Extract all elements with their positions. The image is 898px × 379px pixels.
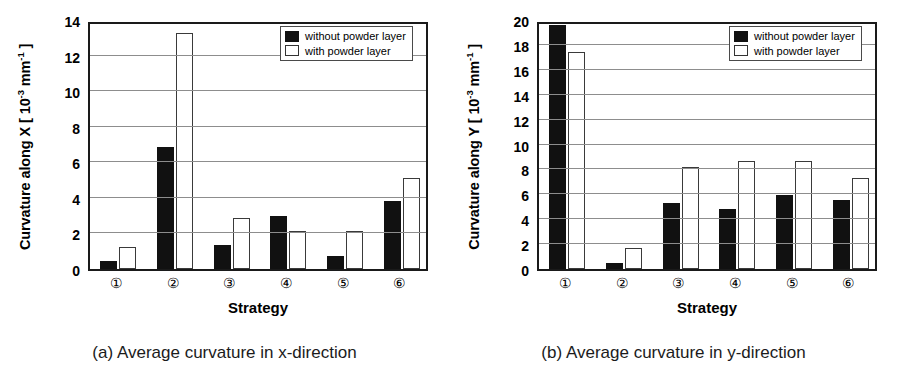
y-tick-label: 12 bbox=[64, 51, 80, 65]
x-tick-label: ④ bbox=[280, 276, 293, 290]
y-tick-label: 4 bbox=[521, 214, 529, 228]
bar-without-powder-layer bbox=[663, 203, 680, 269]
bar-without-powder-layer bbox=[833, 200, 850, 269]
bar-with-powder-layer bbox=[403, 178, 420, 269]
bar-without-powder-layer bbox=[157, 147, 174, 269]
gridline bbox=[90, 197, 426, 198]
caption-a: (a) Average curvature in x-direction bbox=[0, 343, 449, 363]
bar-group bbox=[606, 24, 642, 269]
bar-with-powder-layer bbox=[289, 231, 306, 269]
panel-a: Curvature along X [ 10-3 mm-1 ] 02468101… bbox=[0, 0, 449, 379]
gridline bbox=[90, 90, 426, 91]
legend-item-without-powder-layer-a: without powder layer bbox=[285, 30, 406, 43]
y-tick-label: 2 bbox=[521, 239, 529, 253]
x-tick-label: ④ bbox=[729, 276, 742, 290]
y-tick-label: 12 bbox=[513, 115, 529, 129]
legend-a: without powder layer with powder layer bbox=[280, 26, 413, 61]
y-axis-ticks-b: 02468101214161820 bbox=[497, 22, 533, 271]
bar-without-powder-layer bbox=[270, 216, 287, 269]
gridline bbox=[539, 243, 875, 244]
x-axis-label-b: Strategy bbox=[537, 299, 877, 316]
legend-label-with-powder-layer-b: with powder layer bbox=[754, 45, 840, 58]
x-axis-ticks-a: ①②③④⑤⑥ bbox=[88, 276, 428, 298]
y-tick-label: 8 bbox=[521, 164, 529, 178]
gridline bbox=[539, 144, 875, 145]
legend-item-with-powder-layer-a: with powder layer bbox=[285, 45, 406, 58]
legend-item-without-powder-layer-b: without powder layer bbox=[734, 30, 855, 43]
bar-with-powder-layer bbox=[233, 218, 250, 269]
legend-swatch-light-icon bbox=[285, 45, 299, 56]
x-tick-label: ⑤ bbox=[337, 276, 350, 290]
y-tick-label: 8 bbox=[72, 122, 80, 136]
y-axis-label-a-suffix: ] bbox=[17, 43, 33, 52]
x-tick-label: ⑥ bbox=[393, 276, 406, 290]
bar-with-powder-layer bbox=[346, 231, 363, 269]
bar-with-powder-layer bbox=[852, 178, 869, 269]
y-tick-label: 0 bbox=[72, 264, 80, 278]
y-tick-label: 16 bbox=[513, 65, 529, 79]
x-tick-label: ① bbox=[110, 276, 123, 290]
gridline bbox=[90, 126, 426, 127]
x-tick-label: ⑥ bbox=[842, 276, 855, 290]
legend-swatch-light-icon bbox=[734, 45, 748, 56]
legend-item-with-powder-layer-b: with powder layer bbox=[734, 45, 855, 58]
bar-with-powder-layer bbox=[176, 33, 193, 269]
y-tick-label: 2 bbox=[72, 228, 80, 242]
y-axis-label-b-suffix: ] bbox=[466, 44, 482, 53]
y-tick-label: 14 bbox=[513, 90, 529, 104]
y-tick-label: 10 bbox=[64, 86, 80, 100]
gridline bbox=[539, 119, 875, 120]
y-tick-label: 6 bbox=[521, 189, 529, 203]
x-tick-label: ③ bbox=[672, 276, 685, 290]
bar-with-powder-layer bbox=[119, 247, 136, 269]
bar-with-powder-layer bbox=[568, 52, 585, 269]
legend-label-with-powder-layer-a: with powder layer bbox=[305, 45, 391, 58]
bar-without-powder-layer bbox=[214, 245, 231, 269]
panel-b: Curvature along Y [ 10-3 mm-1 ] 02468101… bbox=[449, 0, 898, 379]
x-tick-label: ② bbox=[167, 276, 180, 290]
y-axis-label-a-exp1: -3 bbox=[15, 90, 26, 98]
bar-without-powder-layer bbox=[776, 195, 793, 269]
y-tick-label: 18 bbox=[513, 40, 529, 54]
y-axis-label-a-prefix: Curvature along X [ 10 bbox=[17, 98, 33, 250]
y-axis-label-b-exp2: -1 bbox=[464, 52, 475, 60]
y-axis-label-a: Curvature along X [ 10-3 mm-1 ] bbox=[2, 22, 46, 271]
y-tick-label: 6 bbox=[72, 157, 80, 171]
y-tick-label: 20 bbox=[513, 15, 529, 29]
legend-label-without-powder-layer-a: without powder layer bbox=[305, 30, 406, 43]
bar-with-powder-layer bbox=[625, 248, 642, 269]
y-axis-label-a-exp2: -1 bbox=[15, 52, 26, 60]
gridline bbox=[90, 161, 426, 162]
bar-without-powder-layer bbox=[549, 25, 566, 269]
gridline bbox=[539, 168, 875, 169]
y-axis-label-b-mid: mm bbox=[466, 60, 482, 90]
gridline bbox=[90, 232, 426, 233]
caption-b: (b) Average curvature in y-direction bbox=[449, 343, 898, 363]
figure-two-panel-bar-charts: Curvature along X [ 10-3 mm-1 ] 02468101… bbox=[0, 0, 898, 379]
gridline bbox=[539, 69, 875, 70]
bar-group bbox=[663, 24, 699, 269]
bar-with-powder-layer bbox=[738, 161, 755, 269]
y-axis-label-b-exp1: -3 bbox=[464, 90, 475, 98]
y-tick-label: 14 bbox=[64, 15, 80, 29]
gridline bbox=[539, 94, 875, 95]
y-axis-ticks-a: 02468101214 bbox=[48, 22, 84, 271]
bar-without-powder-layer bbox=[384, 201, 401, 269]
x-tick-label: ⑤ bbox=[786, 276, 799, 290]
bar-without-powder-layer bbox=[606, 263, 623, 269]
gridline bbox=[539, 218, 875, 219]
y-tick-label: 4 bbox=[72, 193, 80, 207]
bar-without-powder-layer bbox=[327, 256, 344, 269]
y-tick-label: 0 bbox=[521, 264, 529, 278]
gridline bbox=[539, 193, 875, 194]
bar-without-powder-layer bbox=[100, 261, 117, 269]
y-tick-label: 10 bbox=[513, 140, 529, 154]
legend-swatch-dark-icon bbox=[285, 31, 299, 42]
y-axis-label-b-prefix: Curvature along Y [ 10 bbox=[466, 98, 482, 249]
legend-b: without powder layer with powder layer bbox=[729, 26, 862, 61]
bar-group bbox=[549, 24, 585, 269]
legend-swatch-dark-icon bbox=[734, 31, 748, 42]
x-tick-label: ③ bbox=[223, 276, 236, 290]
x-tick-label: ① bbox=[559, 276, 572, 290]
x-tick-label: ② bbox=[616, 276, 629, 290]
